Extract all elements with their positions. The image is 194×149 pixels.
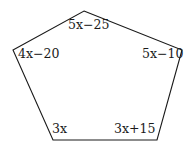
pentagon-diagram: 5x−25 4x−20 5x−10 3x 3x+15 xyxy=(0,0,194,149)
angle-label-bottom-right: 3x+15 xyxy=(114,121,155,136)
angle-label-right: 5x−10 xyxy=(142,46,183,61)
angle-label-bottom-left: 3x xyxy=(52,121,67,136)
angle-label-left: 4x−20 xyxy=(18,46,59,61)
pentagon-figure: 5x−25 4x−20 5x−10 3x 3x+15 xyxy=(0,0,194,149)
angle-label-top: 5x−25 xyxy=(68,17,109,32)
